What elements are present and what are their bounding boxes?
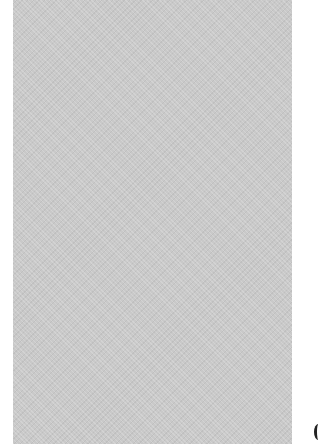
fabric-swatch <box>13 0 292 444</box>
edge-mark <box>314 424 318 440</box>
